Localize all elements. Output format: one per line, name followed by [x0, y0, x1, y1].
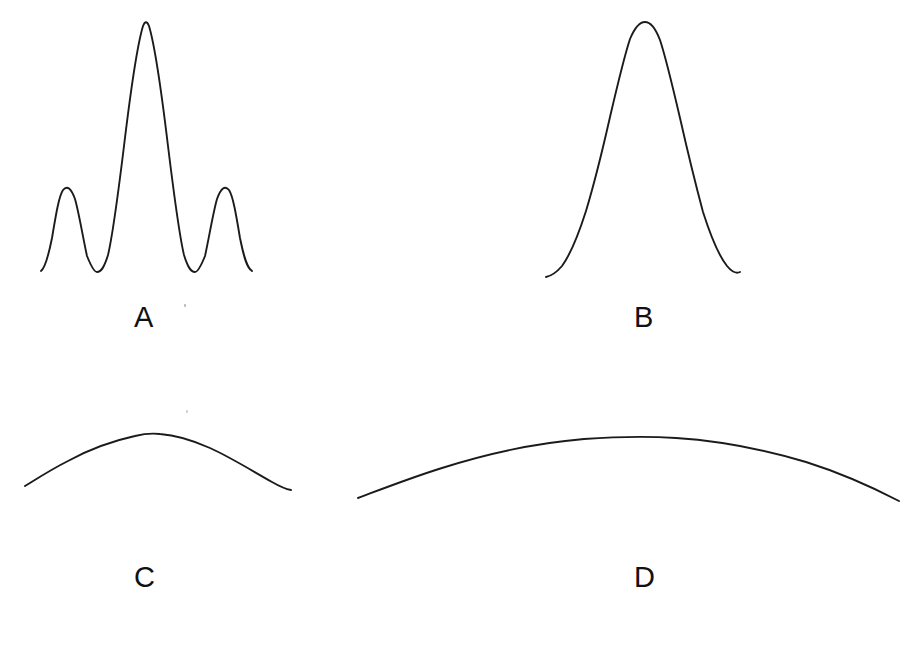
- curve-d-path: [358, 437, 899, 501]
- panel-label-c: C: [134, 563, 155, 592]
- scan-artifact-speck: [184, 304, 186, 307]
- curve-b-path: [546, 22, 740, 277]
- curve-a-path: [41, 22, 252, 272]
- panel-label-a: A: [134, 303, 154, 332]
- curve-c-path: [25, 434, 291, 490]
- panel-label-d: D: [634, 563, 655, 592]
- panel-label-b: B: [634, 303, 654, 332]
- figure-root: A B C D: [0, 0, 917, 661]
- scan-artifact-speck: [186, 410, 188, 413]
